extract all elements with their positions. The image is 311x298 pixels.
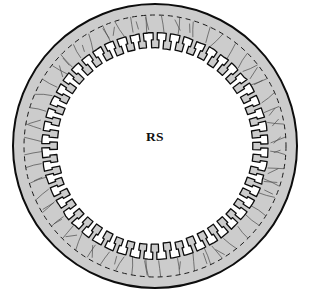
ring-diagram-svg: RS bbox=[0, 0, 311, 298]
figure-root: RS bbox=[0, 0, 311, 298]
center-label-rs: RS bbox=[146, 129, 164, 144]
annulus-body bbox=[13, 4, 297, 288]
toothed-inner-boundary bbox=[42, 33, 268, 260]
